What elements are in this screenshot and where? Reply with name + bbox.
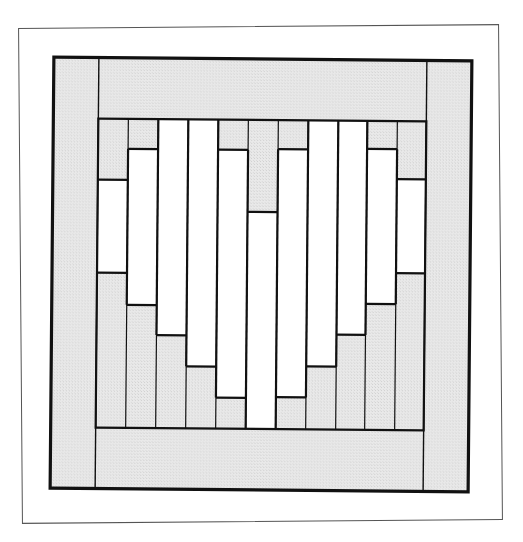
white-strip-4	[186, 119, 218, 366]
strip-edge-1	[127, 149, 128, 305]
white-strip-11	[396, 179, 426, 273]
white-strip-2	[127, 149, 158, 305]
white-strip-7	[276, 149, 308, 397]
white-strip-5	[216, 150, 248, 398]
quilt-diagram	[50, 57, 472, 492]
heart-quilt-block	[50, 57, 472, 492]
white-strip-10	[366, 149, 397, 304]
white-strip-6	[246, 212, 278, 429]
white-strip-3	[156, 119, 188, 335]
white-strip-8	[306, 120, 338, 366]
white-strip-1	[97, 180, 128, 273]
strip-edge-10	[396, 149, 397, 304]
white-strip-9	[336, 121, 367, 335]
